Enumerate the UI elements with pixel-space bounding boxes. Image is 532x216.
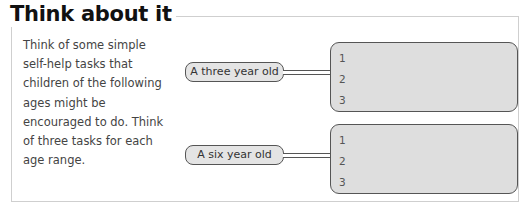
answer-number-1: 1 [339, 52, 346, 64]
answer-number-1: 1 [339, 134, 346, 146]
answer-number-2: 2 [339, 155, 346, 167]
answer-number-2: 2 [339, 73, 346, 85]
answer-number-3: 3 [339, 94, 346, 106]
answer-number-3: 3 [339, 176, 346, 188]
answer-box-three-year-old[interactable]: 1 2 3 [330, 42, 518, 112]
connector-line [283, 153, 331, 158]
answer-box-six-year-old[interactable]: 1 2 3 [330, 124, 518, 194]
age-label-three-year-old: A three year old [185, 62, 284, 82]
section-title: Think about it [7, 1, 176, 27]
activity-prompt: Think of some simple self-help tasks tha… [23, 36, 173, 170]
connector-line [283, 70, 331, 75]
age-label-six-year-old: A six year old [185, 145, 284, 165]
